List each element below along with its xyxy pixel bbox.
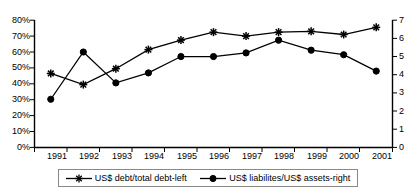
star-marker-icon [210, 28, 218, 36]
star-marker-icon [177, 36, 185, 44]
data-point [242, 32, 250, 40]
circle-marker-icon [308, 47, 314, 53]
data-point [112, 65, 120, 73]
data-point [80, 49, 86, 55]
data-point [48, 96, 54, 102]
data-point [372, 23, 380, 31]
star-marker-icon [372, 23, 380, 31]
data-point [47, 69, 55, 77]
star-marker-icon [340, 31, 348, 39]
data-point [340, 31, 348, 39]
data-point [308, 47, 314, 53]
data-point [113, 80, 119, 86]
data-point [243, 50, 249, 56]
star-marker-icon [307, 27, 315, 35]
circle-marker-icon [113, 80, 119, 86]
data-point [307, 27, 315, 35]
chart-container: 80% 70% 60% 50% 40% 30% 20% 10% 0% 7 6 5… [0, 0, 419, 193]
plot-area [0, 0, 419, 193]
data-point [145, 70, 151, 76]
circle-marker-icon [275, 37, 281, 43]
star-marker-icon [66, 173, 92, 184]
legend-label: US$ debt/total debt-left [95, 173, 187, 183]
star-marker-icon [112, 65, 120, 73]
circle-marker-icon [80, 49, 86, 55]
legend-entry-liabilities-assets: US$ liabilites/US$ assets-right [200, 173, 350, 184]
data-point [341, 52, 347, 58]
data-point [275, 37, 281, 43]
circle-marker-icon [48, 96, 54, 102]
circle-marker-icon [145, 70, 151, 76]
series-line [51, 40, 376, 99]
circle-marker-icon [341, 52, 347, 58]
circle-marker-icon [178, 53, 184, 59]
data-point [79, 81, 87, 89]
circle-marker-icon [373, 68, 379, 74]
star-marker-icon [275, 28, 283, 36]
data-point [275, 28, 283, 36]
circle-marker-icon [243, 50, 249, 56]
data-point [178, 53, 184, 59]
circle-marker-icon [210, 53, 216, 59]
data-point [373, 68, 379, 74]
star-marker-icon [144, 46, 152, 54]
data-point [210, 53, 216, 59]
series-2 [48, 37, 380, 102]
series-layer [47, 23, 380, 102]
circle-marker-icon [200, 173, 226, 184]
data-point [177, 36, 185, 44]
star-marker-icon [79, 81, 87, 89]
star-marker-icon [47, 69, 55, 77]
legend: US$ debt/total debt-left US$ liabilites/… [58, 169, 358, 187]
legend-entry-debt-ratio: US$ debt/total debt-left [66, 173, 187, 184]
star-marker-icon [242, 32, 250, 40]
data-point [144, 46, 152, 54]
data-point [210, 28, 218, 36]
legend-label: US$ liabilites/US$ assets-right [229, 173, 350, 183]
